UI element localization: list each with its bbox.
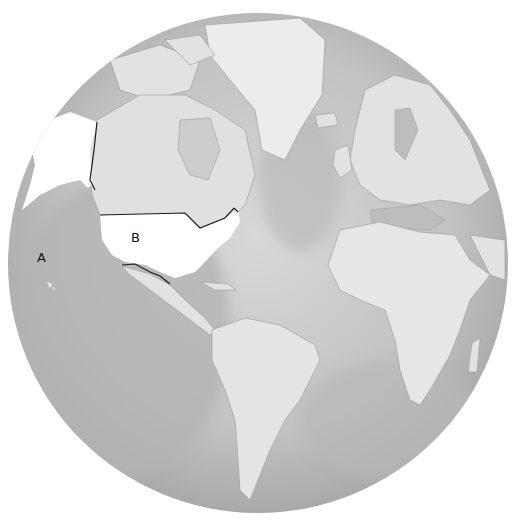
- globe: [8, 13, 508, 513]
- map-label-a: A: [37, 250, 46, 265]
- globe-map: [0, 0, 512, 522]
- map-label-b: B: [131, 230, 140, 245]
- europe: [350, 75, 490, 205]
